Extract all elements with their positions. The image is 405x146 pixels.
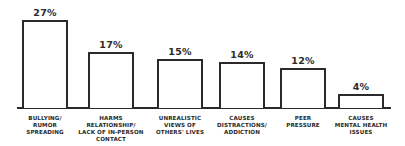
bar-mental-health — [338, 94, 384, 108]
category-label-bullying: BULLYING/ RUMOR SPREADING — [9, 115, 81, 136]
bar-bullying — [22, 20, 68, 108]
bar-chart: 27% BULLYING/ RUMOR SPREADING 17% HARMS … — [0, 0, 405, 146]
bar-harms-relationship — [88, 52, 134, 108]
value-label-peer-pressure: 12% — [273, 55, 333, 66]
bar-peer-pressure — [280, 68, 326, 108]
value-label-bullying: 27% — [15, 7, 75, 18]
bar-distractions — [219, 62, 265, 108]
x-axis-baseline — [17, 107, 391, 109]
value-label-mental-health: 4% — [331, 81, 391, 92]
value-label-distractions: 14% — [212, 49, 272, 60]
bar-unrealistic-views — [157, 59, 203, 108]
category-label-harms-relationship: HARMS RELATIONSHIP/ LACK OF IN-PERSON CO… — [75, 115, 147, 143]
category-label-mental-health: CAUSES MENTAL HEALTH ISSUES — [325, 115, 397, 136]
value-label-harms-relationship: 17% — [81, 39, 141, 50]
value-label-unrealistic-views: 15% — [150, 46, 210, 57]
